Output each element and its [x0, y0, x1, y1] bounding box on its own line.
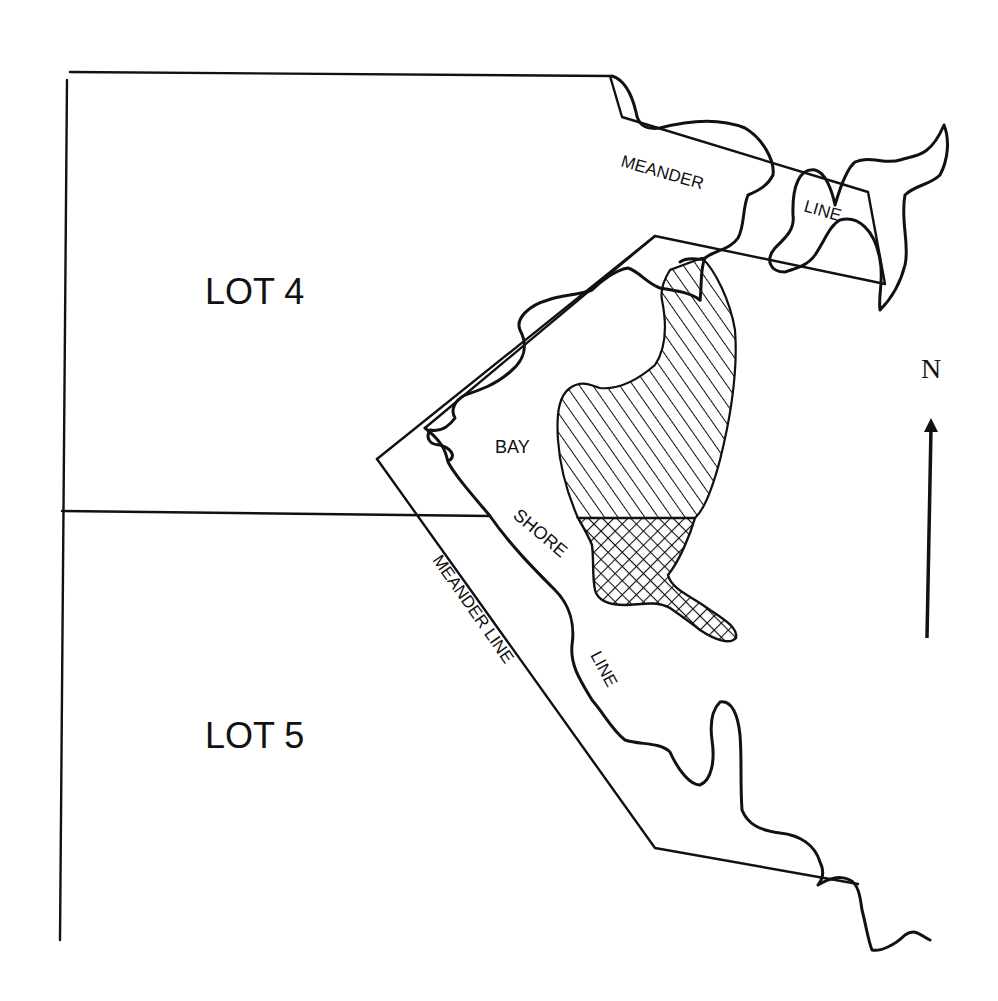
lot-5-label: LOT 5 — [205, 715, 304, 756]
shore-line-label: LINE — [586, 648, 621, 690]
cross-hatched-area — [578, 518, 736, 641]
north-lot-boundary — [70, 72, 610, 76]
bay-label: BAY — [495, 437, 530, 457]
north-arrow-icon — [924, 418, 938, 638]
survey-map: LOT 4 LOT 5 BAY SHORE LINE MEANDER LINE … — [0, 0, 998, 1001]
north-label: N — [921, 353, 941, 384]
meander-line-label-west: MEANDER LINE — [429, 551, 518, 666]
lot-4-label: LOT 4 — [205, 271, 304, 312]
lot-boundaries — [60, 72, 610, 940]
hatched-areas — [558, 258, 737, 641]
diagonal-hatched-area — [558, 258, 736, 518]
east-shore-lobes — [770, 125, 948, 310]
north-arrow: N — [921, 353, 941, 638]
lot-division-line — [62, 511, 490, 516]
meander-label-north: MEANDER — [619, 152, 706, 194]
